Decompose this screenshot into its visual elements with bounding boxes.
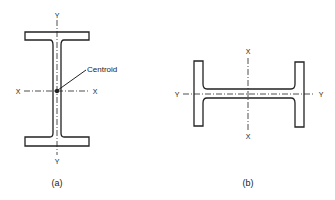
figure-a: Centroid Y Y X X (a) [16,12,118,188]
i-beam-diagram: Centroid Y Y X X (a) X X Y Y (b) [0,0,335,200]
figure-b-caption: (b) [243,178,254,188]
y-axis-label-right: Y [319,91,324,98]
centroid-label: Centroid [87,65,117,74]
y-axis-label-top: Y [55,12,60,19]
x-axis-label-bottom: X [246,133,251,140]
figure-a-caption: (a) [52,178,63,188]
x-axis-label-left: X [16,88,21,95]
y-axis-label-bottom: Y [55,158,60,165]
x-axis-label-top: X [246,48,251,55]
x-axis-label-right: X [93,88,98,95]
y-axis-label-left: Y [175,91,180,98]
centroid-leader-line [58,70,86,90]
figure-b: X X Y Y (b) [175,48,324,188]
